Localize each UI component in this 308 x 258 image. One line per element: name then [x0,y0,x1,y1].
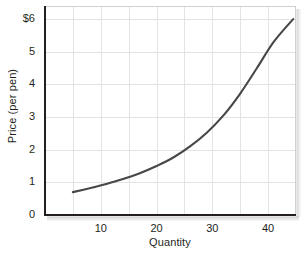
plot-canvas [0,0,308,258]
y-tick-label: 0 [5,208,35,220]
x-axis-title: Quantity [44,236,296,248]
plot-drop-shadow-bottom [47,217,299,222]
y-tick-label: $6 [5,12,35,24]
y-tick-label: 1 [5,175,35,187]
y-tick-label: 4 [5,77,35,89]
supply-curve-chart: Price (per pen) Quantity 012345$61020304… [0,0,308,258]
y-tick-label: 5 [5,45,35,57]
x-tick-label: 30 [197,222,227,234]
plot-area-background [44,6,296,215]
y-tick-label: 3 [5,110,35,122]
y-tick-label: 2 [5,143,35,155]
x-tick-label: 40 [253,222,283,234]
plot-drop-shadow-right [297,9,302,217]
x-tick-label: 20 [142,222,172,234]
x-tick-label: 10 [86,222,116,234]
